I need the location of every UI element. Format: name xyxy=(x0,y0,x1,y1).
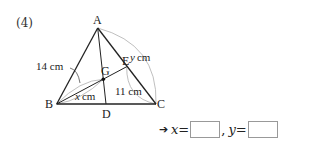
answer-x-box[interactable] xyxy=(190,121,220,138)
answer-y-var: y xyxy=(228,122,235,137)
measure-ab: 14 cm xyxy=(36,60,64,72)
arrow-right-icon: ➔ xyxy=(159,123,168,136)
centroid-point xyxy=(102,78,106,82)
label-a: A xyxy=(93,13,102,27)
measure-ec: 11 cm xyxy=(115,85,142,97)
label-e: E xyxy=(122,54,129,68)
measure-ac: ycm xyxy=(129,51,151,63)
unit-x: cm xyxy=(82,90,96,102)
answer-y-equals: = xyxy=(236,122,247,137)
label-g: G xyxy=(101,64,110,78)
label-b: B xyxy=(45,97,53,111)
answer-y-box[interactable] xyxy=(248,121,278,138)
label-c: C xyxy=(157,97,165,111)
var-y: y xyxy=(129,51,135,63)
label-d: D xyxy=(102,107,111,121)
unit-y: cm xyxy=(137,51,151,63)
answer-separator: , xyxy=(221,122,225,137)
measure-bg: xcm xyxy=(74,90,96,102)
var-x: x xyxy=(74,90,80,102)
answer-row: ➔ x = , y = xyxy=(159,121,279,138)
answer-x-var: x xyxy=(171,122,178,137)
answer-x-equals: = xyxy=(178,122,189,137)
